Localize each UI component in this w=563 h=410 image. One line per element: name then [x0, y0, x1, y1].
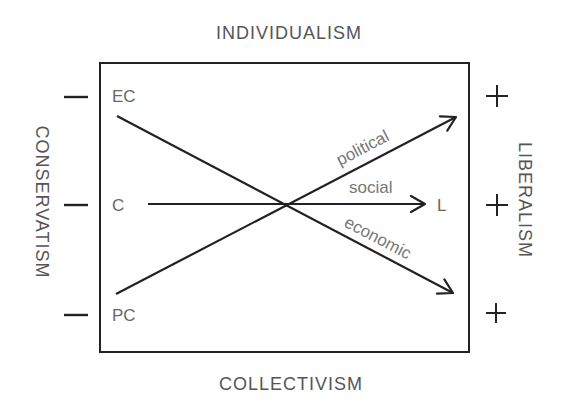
point-label-pc: PC: [112, 306, 136, 325]
ideology-diagram: EC C PC L political social economic: [0, 0, 563, 410]
plus-icon: [486, 85, 508, 107]
point-label-c: C: [112, 196, 124, 215]
line-label-political: political: [333, 127, 392, 170]
line-label-economic: economic: [341, 213, 415, 264]
point-label-l: L: [437, 196, 446, 215]
minus-signs: [64, 97, 88, 315]
plus-icon: [486, 303, 506, 323]
plus-signs: [486, 85, 508, 323]
line-label-social: social: [349, 178, 392, 197]
plus-icon: [486, 194, 508, 216]
point-label-ec: EC: [112, 87, 136, 106]
